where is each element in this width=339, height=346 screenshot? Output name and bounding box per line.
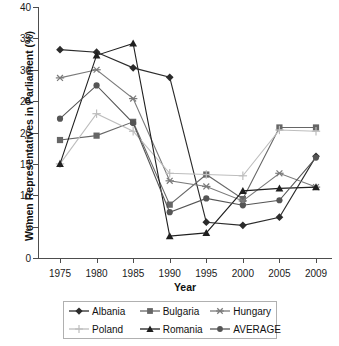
legend-label: Poland: [90, 324, 123, 335]
data-point: [166, 178, 174, 184]
legend-label: Bulgaria: [161, 306, 200, 317]
data-point: [93, 133, 99, 139]
data-point: [240, 202, 246, 208]
data-point: [313, 155, 319, 161]
data-point: [93, 82, 99, 88]
legend-item-poland[interactable]: Poland: [64, 320, 135, 338]
data-point: [56, 75, 64, 81]
data-point: [92, 109, 100, 117]
y-tick-label: 25: [20, 96, 31, 107]
x-tick-label: 2005: [268, 268, 290, 279]
legend-marker-icon: [209, 305, 231, 317]
data-point: [56, 46, 64, 54]
legend-marker-icon: [139, 323, 161, 335]
data-point: [57, 116, 63, 122]
y-tick-label: 35: [20, 33, 31, 44]
x-tick-label: 2009: [305, 268, 327, 279]
chart-root: Women Representatives in Parliament (%) …: [0, 0, 339, 346]
x-tick-label: 1975: [49, 268, 71, 279]
y-tick-label: 15: [20, 158, 31, 169]
y-tick-label: 10: [20, 190, 31, 201]
legend-item-romania[interactable]: Romania: [135, 320, 206, 338]
y-tick-label: 0: [25, 253, 31, 264]
y-tick-label: 40: [20, 2, 31, 13]
data-point: [276, 213, 284, 221]
legend-item-albania[interactable]: Albania: [64, 302, 135, 320]
data-point: [130, 120, 136, 126]
legend-marker-icon: [68, 323, 90, 335]
x-axis-title: Year: [38, 281, 332, 293]
data-point: [129, 64, 137, 72]
legend-item-bulgaria[interactable]: Bulgaria: [135, 302, 206, 320]
legend-label: AVERAGE: [231, 324, 281, 335]
y-tick-label: 30: [20, 64, 31, 75]
series-lines: [38, 7, 332, 259]
legend-marker-icon: [209, 323, 231, 335]
data-point: [202, 184, 210, 190]
series-poland: [56, 109, 320, 179]
x-tick-label: 1990: [159, 268, 181, 279]
x-tick-label: 1995: [195, 268, 217, 279]
y-tick-label: 20: [20, 127, 31, 138]
legend-item-hungary[interactable]: Hungary: [205, 302, 276, 320]
data-point: [203, 195, 209, 201]
data-point: [276, 197, 282, 203]
legend-marker-icon: [139, 305, 161, 317]
x-tick-label: 2000: [232, 268, 254, 279]
y-tick-label: 5: [25, 221, 31, 232]
data-point: [57, 137, 63, 143]
data-point: [129, 40, 137, 47]
plot-area: 0510152025303540 19751980198519901995200…: [38, 7, 332, 259]
data-point: [202, 218, 210, 226]
data-point: [239, 221, 247, 229]
legend-label: Romania: [161, 324, 203, 335]
legend-label: Hungary: [231, 306, 271, 317]
x-tick-label: 1985: [122, 268, 144, 279]
data-point: [166, 73, 174, 81]
x-tick-label: 1980: [85, 268, 107, 279]
legend-label: Albania: [90, 306, 125, 317]
chart-legend: AlbaniaBulgariaHungaryPolandRomaniaAVERA…: [63, 301, 277, 339]
legend-marker-icon: [68, 305, 90, 317]
data-point: [167, 209, 173, 215]
legend-item-average[interactable]: AVERAGE: [205, 320, 276, 338]
